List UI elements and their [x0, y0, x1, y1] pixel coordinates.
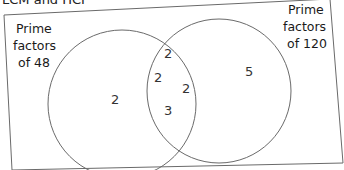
set-a-circle: [48, 30, 196, 170]
intersection-element: 2: [182, 81, 190, 96]
set-a-label: Prime factors of 48: [13, 21, 60, 70]
venn-diagram: Prime factors of 48 Prime factors of 120…: [0, 0, 344, 170]
intersection-element: 3: [164, 103, 172, 118]
set-b-only-element: 5: [245, 64, 253, 79]
intersection-element: 2: [154, 70, 162, 85]
set-b-circle: [147, 19, 291, 163]
set-a-only-element: 2: [111, 92, 119, 107]
set-b-label: Prime factors of 120: [283, 2, 330, 51]
intersection-element: 2: [164, 46, 172, 61]
